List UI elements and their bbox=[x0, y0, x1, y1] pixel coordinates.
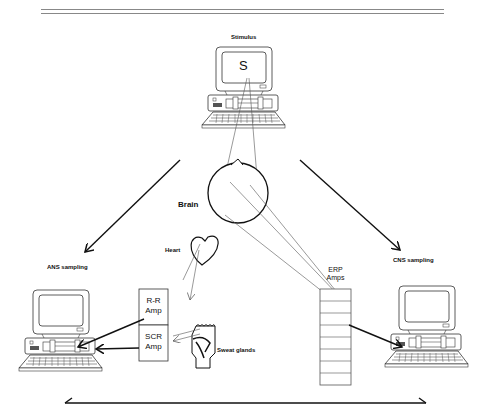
ans-sampling-label: ANS sampling bbox=[47, 264, 88, 270]
rr-amp-line2: Amp bbox=[139, 306, 168, 316]
erp-amps-stack bbox=[320, 289, 351, 385]
arrow-to-ans bbox=[85, 160, 180, 252]
heart-label: Heart bbox=[165, 247, 180, 253]
stimulus-label: Stimulus bbox=[231, 34, 256, 40]
sweat-glands-label: Sweat glands bbox=[217, 347, 255, 353]
brain-label: Brain bbox=[178, 200, 198, 209]
cns-sampling-label: CNS sampling bbox=[393, 257, 434, 263]
erp-amps-line2: Amps bbox=[320, 274, 351, 282]
arrow-to-cns bbox=[300, 160, 400, 250]
rr-amp-line1: R-R bbox=[139, 296, 168, 306]
erp-amps-label: ERP Amps bbox=[320, 266, 351, 282]
scr-amp-line1: SCR bbox=[139, 332, 168, 342]
erp-amps-line1: ERP bbox=[320, 266, 351, 274]
scr-amp-line2: Amp bbox=[139, 342, 168, 352]
ans-computer-icon bbox=[19, 290, 102, 371]
scr-amp-label: SCR Amp bbox=[139, 332, 168, 352]
heart-icon bbox=[191, 236, 218, 265]
brain-icon bbox=[208, 163, 268, 223]
rr-amp-label: R-R Amp bbox=[139, 296, 168, 316]
screen-letter: S bbox=[239, 58, 248, 73]
cns-computer-icon bbox=[385, 286, 468, 367]
sweat-glands-icon bbox=[192, 325, 215, 369]
